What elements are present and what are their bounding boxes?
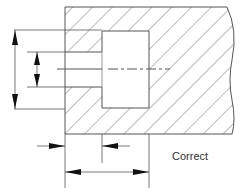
caption-correct: Correct [172, 150, 208, 162]
dimension-overall-depth [65, 169, 149, 175]
dimension-large-diameter [12, 30, 18, 109]
hatched-material [60, 0, 246, 140]
section-drawing [0, 0, 246, 195]
dimension-small-diameter [34, 52, 40, 87]
dimension-counterbore-depth [37, 143, 130, 149]
